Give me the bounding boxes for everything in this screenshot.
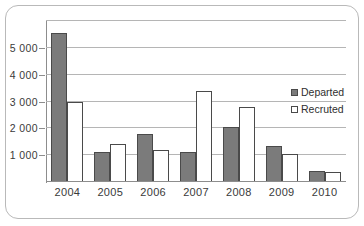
x-axis-label-2010: 2010 (312, 186, 338, 198)
y-axis-tick-label: 5 000 (10, 42, 38, 54)
y-axis-tick-label: 4 000 (10, 69, 38, 81)
bar-recruted-2004 (67, 102, 83, 183)
x-axis-label-2004: 2004 (55, 186, 81, 198)
bar-departed-2005 (94, 152, 110, 182)
y-axis-tick-mark (39, 155, 45, 156)
empty-square-icon (291, 106, 298, 113)
bar-group-2009 (260, 146, 303, 182)
bar-group-2008 (217, 107, 260, 182)
bar-chart-figure: 1 0002 0003 0004 0005 000 20042005200620… (0, 0, 364, 226)
y-axis-tick-mark (39, 102, 45, 103)
bar-group-2007 (175, 91, 218, 182)
bar-group-2004 (46, 33, 89, 182)
bar-departed-2004 (51, 33, 67, 182)
y-axis-tick-label: 3 000 (10, 96, 38, 108)
x-axis-labels: 2004200520062007200820092010 (46, 186, 346, 208)
bar-group-2006 (132, 134, 175, 182)
x-axis-label-2007: 2007 (183, 186, 209, 198)
bar-recruted-2009 (282, 154, 298, 182)
x-axis-label-2005: 2005 (97, 186, 123, 198)
bar-recruted-2005 (110, 144, 126, 182)
y-axis-tick-label: 2 000 (10, 122, 38, 134)
filled-square-icon (291, 89, 298, 96)
y-axis-tick-label: 1 000 (10, 149, 38, 161)
bar-departed-2009 (266, 146, 282, 182)
y-axis-tick-mark (39, 128, 45, 129)
x-axis-baseline (46, 181, 346, 182)
legend-label: Recruted (301, 103, 344, 115)
gridline (46, 47, 346, 48)
bar-departed-2006 (137, 134, 153, 182)
chart-legend: DepartedRecruted (291, 86, 344, 115)
legend-item-departed[interactable]: Departed (291, 86, 344, 98)
y-axis-tick-mark (39, 75, 45, 76)
y-axis-tick-mark (39, 48, 45, 49)
legend-item-recruted[interactable]: Recruted (291, 103, 344, 115)
bar-departed-2008 (223, 127, 239, 182)
x-axis-label-2006: 2006 (140, 186, 166, 198)
gridline (46, 20, 346, 21)
bar-recruted-2008 (239, 107, 255, 182)
x-axis-label-2009: 2009 (269, 186, 295, 198)
bar-group-2005 (89, 144, 132, 182)
x-axis-label-2008: 2008 (226, 186, 252, 198)
bar-recruted-2006 (153, 150, 169, 182)
legend-label: Departed (301, 86, 344, 98)
bar-recruted-2007 (196, 91, 212, 182)
y-axis-labels: 1 0002 0003 0004 0005 000 (0, 21, 38, 182)
gridline (46, 74, 346, 75)
bar-departed-2007 (180, 152, 196, 182)
